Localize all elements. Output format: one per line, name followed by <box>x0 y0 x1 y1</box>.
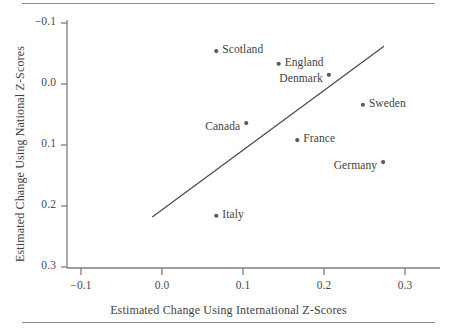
x-tick-label: 0.0 <box>132 279 192 291</box>
x-axis-title: Estimated Change Using International Z-S… <box>0 303 457 318</box>
data-point-italy[interactable] <box>214 214 218 218</box>
data-point-england[interactable] <box>277 62 281 66</box>
x-tick-label: 0.2 <box>294 279 354 291</box>
figure-panel: 0.30.20.10.0−0.1−0.10.00.10.20.3 Scotlan… <box>0 0 457 330</box>
data-point-france[interactable] <box>295 138 299 142</box>
point-label-germany: Germany <box>257 159 377 171</box>
data-point-sweden[interactable] <box>361 103 365 107</box>
point-label-sweden: Sweden <box>369 97 406 109</box>
data-point-germany[interactable] <box>381 160 385 164</box>
x-axis-ticks <box>81 268 405 275</box>
point-label-england: England <box>285 56 324 68</box>
x-tick-label: −0.1 <box>51 279 111 291</box>
point-label-italy: Italy <box>222 208 244 220</box>
x-tick-label: 0.1 <box>213 279 273 291</box>
axes-group <box>61 20 440 275</box>
point-label-denmark: Denmark <box>203 72 323 84</box>
point-label-canada: Canada <box>120 120 240 132</box>
point-label-france: France <box>303 132 335 144</box>
data-point-canada[interactable] <box>244 121 248 125</box>
x-tick-label: 0.3 <box>375 279 435 291</box>
y-axis-title: Estimated Change Using National Z-Scores <box>13 20 28 288</box>
data-point-scotland[interactable] <box>214 49 218 53</box>
y-axis-ticks <box>61 23 67 267</box>
data-point-denmark[interactable] <box>327 73 331 77</box>
point-label-scotland: Scotland <box>222 43 263 55</box>
